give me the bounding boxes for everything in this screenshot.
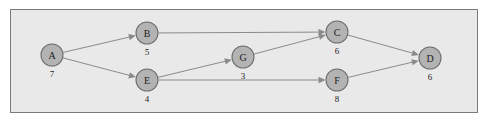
node-label-e: E <box>144 75 150 86</box>
node-label-b: B <box>144 28 151 39</box>
arrowhead-e-to-f <box>319 77 326 83</box>
edge-c-to-d <box>348 35 412 53</box>
node-weight-f: 8 <box>335 94 340 104</box>
node-label-g: G <box>239 52 246 63</box>
node-label-a: A <box>48 50 56 61</box>
node-c[interactable]: C6 <box>326 21 348 56</box>
node-f[interactable]: F8 <box>326 69 348 104</box>
directed-graph: A7B5E4G3C6F8D6 <box>0 0 490 123</box>
edge-a-to-e <box>63 58 129 75</box>
edge-g-to-c <box>254 37 319 54</box>
arrowhead-g-to-c <box>318 34 326 40</box>
arrowhead-e-to-g <box>224 58 232 64</box>
node-g[interactable]: G3 <box>232 46 254 81</box>
edge-e-to-g <box>158 61 225 77</box>
arrowhead-a-to-e <box>128 72 136 78</box>
edge-f-to-d <box>348 62 412 77</box>
arrowhead-a-to-b <box>128 34 136 40</box>
nodes-layer: A7B5E4G3C6F8D6 <box>41 21 441 104</box>
node-b[interactable]: B5 <box>136 22 158 57</box>
edge-a-to-b <box>63 37 129 52</box>
node-e[interactable]: E4 <box>136 69 158 104</box>
node-a[interactable]: A7 <box>41 44 63 79</box>
edge-b-to-c <box>159 32 319 33</box>
diagram-screenshot: A7B5E4G3C6F8D6 <box>0 0 490 123</box>
arrowhead-f-to-d <box>411 59 419 65</box>
node-label-f: F <box>334 75 340 86</box>
node-d[interactable]: D6 <box>419 47 441 82</box>
node-weight-b: 5 <box>145 47 150 57</box>
node-label-c: C <box>334 27 341 38</box>
node-weight-e: 4 <box>145 94 150 104</box>
node-label-d: D <box>426 53 433 64</box>
node-weight-d: 6 <box>428 72 433 82</box>
arrowhead-c-to-d <box>411 50 419 56</box>
node-weight-c: 6 <box>335 46 340 56</box>
node-weight-g: 3 <box>241 71 246 81</box>
node-weight-a: 7 <box>50 69 55 79</box>
